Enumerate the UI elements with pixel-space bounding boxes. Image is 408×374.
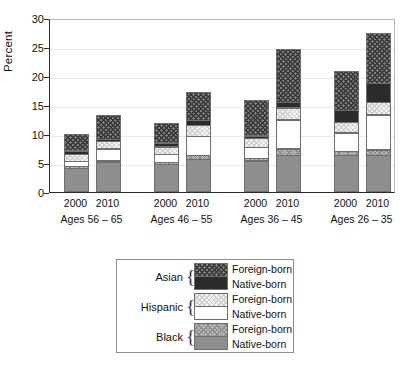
legend-swatch-foreign: [195, 264, 227, 277]
segment-black_native: [96, 162, 121, 192]
legend-labels: Foreign-bornNative-born: [232, 323, 292, 350]
segment-hispanic_native: [366, 115, 391, 151]
legend-swatch-hispanic: [194, 293, 228, 320]
legend-group-hispanic: Hispanic{Foreign-bornNative-born: [117, 292, 295, 321]
chart-legend: Asian{Foreign-bornNative-bornHispanic{Fo…: [116, 259, 294, 353]
legend-swatch-foreign: [195, 324, 227, 337]
legend-label-foreign: Foreign-born: [232, 293, 292, 305]
segment-asian_foreign: [64, 134, 89, 151]
segment-black_native: [154, 164, 179, 192]
legend-group-name: Black: [117, 331, 186, 343]
legend-group-name: Asian: [117, 271, 186, 283]
x-axis-labels: 20002010Ages 56 – 6520002010Ages 46 – 55…: [49, 195, 395, 243]
segment-asian_foreign: [366, 33, 391, 84]
legend-label-foreign: Foreign-born: [232, 323, 292, 335]
legend-swatch-black: [194, 323, 228, 350]
segment-black_native: [244, 161, 269, 192]
bar-Ages46–55-2000[interactable]: [154, 124, 179, 192]
y-tick-25: 25: [32, 42, 44, 54]
bar-Ages56–65-2010[interactable]: [96, 116, 121, 192]
plot-wrapper: Percent 051015202530 20002010Ages 56 – 6…: [0, 0, 408, 246]
legend-label-native: Native-born: [232, 308, 292, 320]
segment-hispanic_native: [244, 147, 269, 159]
bar-Ages36–45-2000[interactable]: [244, 100, 269, 192]
stacked-bar-chart: Percent 051015202530 20002010Ages 56 – 6…: [0, 0, 408, 374]
y-tick-15: 15: [32, 100, 44, 112]
legend-brace-icon: {: [186, 267, 194, 286]
y-tick-10: 10: [32, 129, 44, 141]
x-tick-year-Ages46–55-2010: 2010: [176, 197, 220, 209]
segment-asian_foreign: [334, 71, 359, 111]
segment-black_native: [186, 159, 211, 192]
y-tick-mark-30: [44, 19, 49, 20]
segment-hispanic_foreign: [186, 125, 211, 137]
legend-labels: Foreign-bornNative-born: [232, 293, 292, 320]
y-tick-mark-20: [44, 77, 49, 78]
segment-hispanic_native: [334, 133, 359, 152]
y-tick-30: 30: [32, 13, 44, 25]
y-axis-label: Percent: [2, 31, 14, 72]
segment-black_native: [366, 155, 391, 192]
segment-black_native: [276, 155, 301, 192]
legend-labels: Foreign-bornNative-born: [232, 263, 292, 290]
y-tick-mark-0: [44, 193, 49, 194]
segment-asian_foreign: [276, 49, 301, 103]
y-tick-mark-10: [44, 135, 49, 136]
segment-hispanic_native: [186, 136, 211, 156]
legend-label-native: Native-born: [232, 338, 292, 350]
segment-hispanic_foreign: [366, 102, 391, 115]
x-tick-year-Ages36–45-2010: 2010: [266, 197, 310, 209]
legend-swatch-native: [195, 337, 227, 349]
segment-asian_foreign: [154, 123, 179, 143]
segment-black_native: [64, 168, 89, 192]
legend-brace-icon: {: [186, 327, 194, 346]
legend-label-native: Native-born: [232, 278, 292, 290]
bar-Ages26–35-2000[interactable]: [334, 71, 359, 192]
legend-group-asian: Asian{Foreign-bornNative-born: [117, 262, 295, 291]
legend-swatch-asian: [194, 263, 228, 290]
legend-swatch-foreign: [195, 294, 227, 307]
y-tick-mark-5: [44, 164, 49, 165]
legend-swatch-native: [195, 277, 227, 289]
segment-asian_foreign: [96, 115, 121, 139]
segment-hispanic_native: [96, 149, 121, 162]
bar-Ages56–65-2000[interactable]: [64, 135, 89, 192]
x-tick-year-Ages26–35-2010: 2010: [356, 197, 400, 209]
bar-Ages26–35-2010[interactable]: [366, 33, 391, 192]
segment-asian_native: [334, 110, 359, 123]
bar-Ages46–55-2010[interactable]: [186, 93, 211, 192]
x-tick-year-Ages56–65-2010: 2010: [86, 197, 130, 209]
x-group-label-3: Ages 26 – 35: [307, 213, 408, 225]
plot-area: [49, 19, 395, 193]
legend-swatch-native: [195, 307, 227, 319]
y-tick-mark-15: [44, 106, 49, 107]
bar-Ages36–45-2010[interactable]: [276, 49, 301, 192]
segment-asian_native: [366, 83, 391, 103]
y-tick-mark-25: [44, 48, 49, 49]
segment-hispanic_foreign: [276, 108, 301, 121]
legend-group-name: Hispanic: [117, 301, 186, 313]
legend-brace-icon: {: [186, 297, 194, 316]
segment-asian_foreign: [244, 100, 269, 137]
bars-container: [50, 20, 394, 192]
legend-label-foreign: Foreign-born: [232, 263, 292, 275]
segment-asian_foreign: [186, 92, 211, 120]
y-tick-20: 20: [32, 71, 44, 83]
y-axis-tick-labels: 051015202530: [14, 0, 44, 246]
segment-hispanic_native: [276, 120, 301, 150]
legend-group-black: Black{Foreign-bornNative-born: [117, 322, 295, 351]
segment-black_native: [334, 155, 359, 192]
